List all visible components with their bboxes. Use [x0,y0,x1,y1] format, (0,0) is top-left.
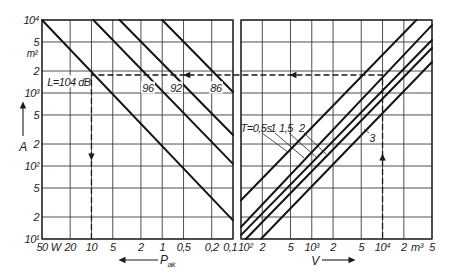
curve-l-104-db [42,20,233,220]
plot-frame [42,20,233,239]
nomogram-chart: 5020105210,50,20,1W10¹2510²2510³2510⁴m²L… [0,0,450,280]
arrow-down-icon [88,153,94,160]
x-axis-volume-arrow-right-icon [349,257,356,263]
y-tick-label: 5 [33,182,40,194]
x-tick-label: 2 [258,241,265,253]
x-unit-label: m³ [411,241,424,253]
x-tick-label: 5 [429,241,436,253]
x-tick-label: 5 [288,241,295,253]
y-tick-label: 2 [32,65,39,77]
x-tick-label: 1 [159,241,165,253]
x-tick-label: 10² [238,241,253,253]
curve-label: 92 [170,82,182,94]
y-tick-label: 2 [32,138,39,150]
x-tick-label: 5 [358,241,365,253]
arrow-up-icon [379,153,385,160]
curve-t-3-s [261,62,432,239]
x-tick-label: 2 [329,241,336,253]
curve-label: 2 [298,122,305,134]
y-axis-arrow-up-icon [20,102,26,109]
y-tick-label: 10² [25,160,40,172]
x-tick-label: 10³ [305,241,320,253]
x-tick-label: 0,1 [223,241,237,253]
y-tick-label: 10³ [25,87,40,99]
y-tick-label: 10⁴ [24,14,40,26]
curve-t-0-5-s [241,20,416,200]
x-tick-label: 10⁴ [375,241,391,253]
x-unit-label: W [51,241,63,253]
x-tick-label: 2 [400,241,407,253]
x-axis-label-volume: V [311,254,320,268]
curve-label: T=0,5s [241,122,273,134]
x-axis-label-power-subscript: ak [168,260,177,269]
x-tick-label: 2 [137,241,144,253]
x-tick-label: 5 [110,241,117,253]
y-tick-label: 10¹ [25,233,40,245]
x-tick-label: 20 [64,241,78,253]
x-axis-power-arrow-left-icon [119,257,126,263]
y-tick-label: 5 [33,109,40,121]
curve-label: 3 [369,132,376,144]
x-tick-label: 0,5 [177,241,192,253]
left-panel-plot: 5020105210,50,20,1W10¹2510²2510³2510⁴m²L… [24,14,238,253]
y-tick-label: 2 [32,211,39,223]
y-axis-label: A [18,140,27,154]
y-tick-label: 5 [33,36,40,48]
curve-label: 1 [270,122,276,134]
curve-label: 86 [210,82,223,94]
right-panel-plot: 10²2510³2510⁴25m³T=0,5s11,523 [238,20,436,253]
x-tick-label: 0,2 [205,241,219,253]
leader-line [262,133,288,152]
curve-t-1-5-s [241,40,432,235]
curve-label: L=104 dB [47,76,91,88]
y-unit-label: m² [27,48,39,59]
leader-line [304,133,326,154]
curve-l-92-db [120,20,233,135]
curve-label: 1,5 [279,122,294,134]
arrow-left-icon [183,72,190,78]
x-axis-label-power: Pak [160,253,176,269]
x-tick-label: 10 [86,241,99,253]
curve-label: 96 [142,82,155,94]
